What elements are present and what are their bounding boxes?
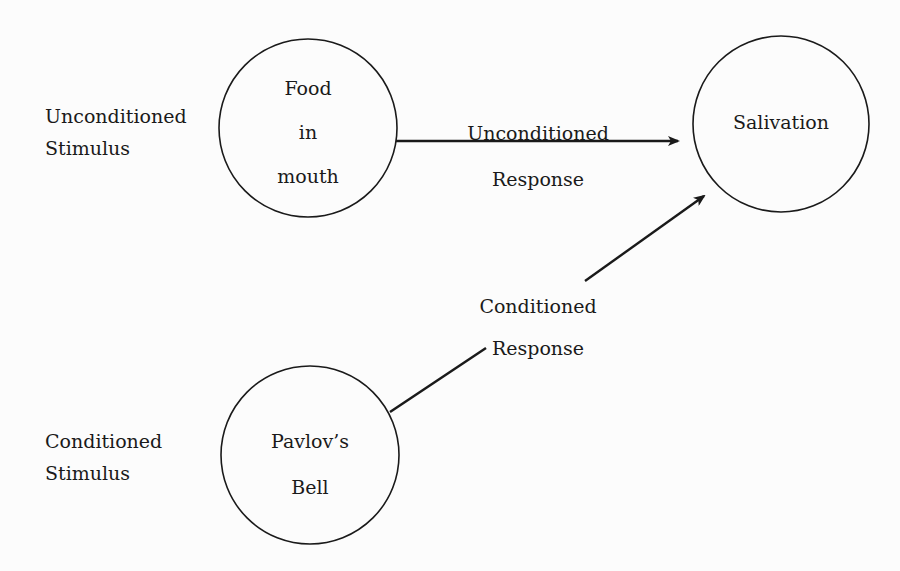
conditioned-response-line-lower [390,348,486,412]
label-line: Unconditioned [467,110,609,156]
unconditioned-stimulus-label: Unconditioned Stimulus [45,100,187,164]
label-line: Food [277,66,339,110]
edge-unconditioned-response-label: Unconditioned Response [467,110,609,202]
label-line: Unconditioned [45,100,187,132]
label-line: in [277,110,339,154]
label-line: Response [467,156,609,202]
conditioned-stimulus-label: Conditioned Stimulus [45,425,162,489]
node-food-label: Food in mouth [277,66,339,198]
label-line: Pavlov’s [271,418,349,464]
node-bell-label: Pavlov’s Bell [271,418,349,510]
label-line: Stimulus [45,457,162,489]
label-line: Conditioned [45,425,162,457]
label-line: Bell [271,464,349,510]
label-line: Stimulus [45,132,187,164]
label-line: Salivation [733,106,829,138]
label-line: mouth [277,154,339,198]
label-line: Conditioned [479,285,596,327]
label-line: Response [479,327,596,369]
edge-conditioned-response-label: Conditioned Response [479,285,596,369]
node-salivation-label: Salivation [733,106,829,138]
conditioned-response-arrow-upper [585,196,704,281]
